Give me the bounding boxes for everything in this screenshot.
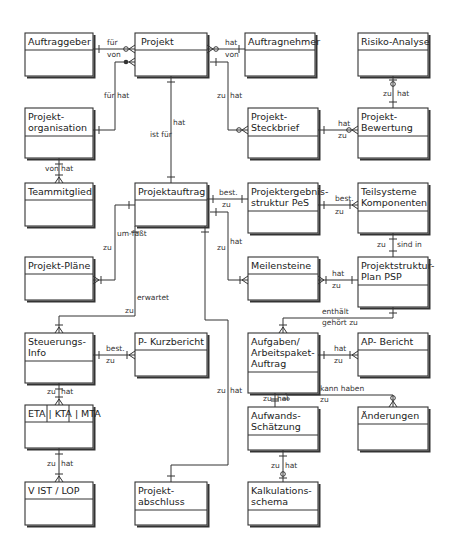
entity-name: Kalkulations- [251, 485, 312, 496]
entity-steuerung: Steuerungs-Info [25, 333, 95, 385]
relationship-label: hat [61, 387, 73, 396]
entity-name: schema [251, 496, 288, 507]
entity-projektauftrag: Projektauftrag [135, 183, 209, 228]
entity-aufwand: Aufwands-Schätzung [248, 407, 320, 452]
relationship-label: zu [263, 394, 272, 403]
entity-kurzbericht: P- Kurzbericht [135, 333, 209, 378]
entity-name: V IST / LOP [28, 485, 80, 496]
entity-projekt: Projekt [135, 33, 209, 78]
entity-name: Risiko-Analyse [361, 36, 430, 47]
relationship-label: zu [222, 200, 231, 209]
relationship-label: gehört zu [322, 318, 358, 327]
relationship-label: zu [103, 243, 112, 252]
relationship-label: hat [230, 237, 242, 246]
entity-pes: Projektergebnis-struktur PeS [248, 183, 328, 235]
relationship-label: hat [173, 118, 185, 127]
relationship-teilsysteme-psp [389, 233, 397, 257]
entity-name: struktur PeS [251, 197, 309, 208]
entity-vist: V IST / LOP [25, 482, 95, 527]
relationship-line [210, 62, 248, 130]
entity-meilensteine: Meilensteine [248, 257, 320, 302]
relationship-line [93, 205, 135, 280]
relationship-label: hat [397, 89, 409, 98]
entity-name: P- Kurzbericht [138, 336, 204, 347]
entity-name: Projekt-Pläne [28, 260, 90, 271]
relationship-label: zu [125, 306, 134, 315]
entity-name: Aufwands- [251, 410, 301, 421]
relationship-label: hat [332, 269, 344, 278]
entity-name: organisation [28, 122, 87, 133]
entity-name: Projektergebnis- [251, 186, 328, 197]
relationship-auftrag-plaene [93, 201, 135, 284]
relationship-label: hat [230, 386, 242, 395]
entity-name: Meilensteine [251, 260, 311, 271]
relationship-label: zu [106, 356, 115, 365]
relationship-label: hat [230, 91, 242, 100]
relationship-label: um-faßt [117, 229, 147, 238]
entity-name: Info [28, 347, 46, 358]
relationship-label: best. [106, 344, 125, 353]
relationship-label: zu [47, 387, 56, 396]
entity-name: AP- Bericht [361, 336, 414, 347]
relationship-label: zu [377, 240, 386, 249]
relationship-label: hat [285, 461, 297, 470]
relationship-label: hat [338, 119, 350, 128]
entity-name: Projektstruktur- [361, 260, 434, 271]
relationship-label: ist für [150, 130, 173, 139]
relationship-label: von [225, 50, 239, 59]
relationship-label: zu [47, 459, 56, 468]
entity-name: Arbeitspaket- [251, 347, 315, 358]
entity-name: Bewertung [361, 122, 413, 133]
cardinality-mandatory-mark [124, 60, 129, 65]
relationship-label: hat [334, 344, 346, 353]
entity-kalkulation: Kalkulations-schema [248, 482, 320, 527]
entity-risiko: Risiko-Analyse [358, 33, 430, 78]
entity-name: Auftragnehmer [248, 36, 320, 47]
entity-teilsysteme: TeilsystemeKomponenten [358, 183, 430, 235]
relationship-label: zu [332, 281, 341, 290]
relationship-label: von [45, 164, 59, 173]
entity-projorg: Projekt-organisation [25, 108, 95, 160]
relationship-label: hat [61, 164, 73, 173]
entity-name: Schätzung [251, 421, 301, 432]
entity-apbericht: AP- Bericht [358, 333, 430, 378]
entity-name: Teilsysteme [360, 186, 417, 197]
entity-name: abschluss [138, 496, 185, 507]
entity-name: Projekt- [251, 111, 287, 122]
relationship-label: hat [225, 38, 237, 47]
entity-steckbrief: Projekt-Steckbrief [248, 108, 320, 160]
relationship-label: zu [217, 243, 226, 252]
entity-name: Steckbrief [251, 122, 300, 133]
entity-name: Projekt- [361, 111, 397, 122]
entity-name: Projekt [141, 36, 174, 47]
entity-teammitglied: Teammitglied [25, 183, 95, 228]
entity-bewertung: Projekt-Bewertung [358, 108, 430, 160]
relationship-label: hat [117, 91, 129, 100]
relationship-projekt-steckbrief [210, 58, 248, 134]
entity-auftraggeber: Auftraggeber [25, 33, 95, 78]
relationship-label: best. [335, 194, 354, 203]
relationship-label: kann haben [320, 384, 364, 393]
entity-aenderungen: Änderungen [358, 407, 430, 452]
relationship-label: hat [277, 394, 289, 403]
entity-name: Änderungen [361, 410, 419, 421]
relationship-label: hat [61, 459, 73, 468]
entity-name: Komponenten [361, 197, 427, 208]
entity-auftragnehmer: Auftragnehmer [245, 33, 320, 78]
relationship-label: zu [338, 131, 347, 140]
relationship-label: für [104, 91, 115, 100]
entity-name: Auftraggeber [28, 36, 91, 47]
relationship-label: für [107, 38, 118, 47]
relationship-label: zu [334, 356, 343, 365]
entity-psp: Projektstruktur-Plan PSP [358, 257, 434, 309]
entity-name: Steuerungs- [28, 336, 86, 347]
entity-name: Projekt- [138, 485, 174, 496]
entity-name: Auftrag [251, 358, 286, 369]
entity-eta: ETA | KTA | MTA [25, 405, 101, 450]
entity-aufgaben: Aufgaben/Arbeitspaket-Auftrag [248, 333, 320, 395]
entity-name: Projektauftrag [138, 186, 205, 197]
relationship-label: von [107, 50, 121, 59]
entity-abschluss: Projekt-abschluss [135, 482, 209, 527]
entity-name: Teammitglied [27, 186, 92, 197]
entity-name: ETA | KTA | MTA [28, 408, 101, 419]
